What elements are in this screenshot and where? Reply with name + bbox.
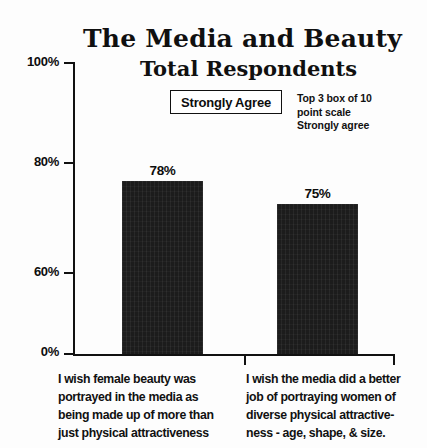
category-0-line-3: just physical attractiveness (58, 424, 243, 442)
y-axis-label-0: 0% (0, 344, 59, 359)
chart-container: The Media and Beauty Total Respondents S… (0, 0, 427, 448)
legend-label: Strongly Agree (181, 95, 271, 110)
bar-value-1: 75% (277, 186, 358, 201)
x-axis-tick (393, 356, 395, 365)
y-axis-label-100: 100% (0, 54, 59, 69)
chart-title: The Media and Beauty (0, 26, 427, 51)
annotation-line-1: Top 3 box of 10 (297, 92, 419, 106)
category-1-line-0: I wish the media did a better (246, 370, 427, 388)
legend-strongly-agree: Strongly Agree (170, 90, 282, 114)
y-axis-tick (64, 62, 74, 64)
bar-1 (277, 204, 358, 354)
y-axis-line (73, 62, 75, 356)
category-label-1: I wish the media did a better job of por… (246, 370, 427, 442)
bar-0 (122, 181, 203, 354)
category-1-line-2: diverse physical attractive- (246, 406, 427, 424)
bar-value-0: 78% (122, 163, 203, 178)
category-0-line-1: portrayed in the media as (58, 388, 243, 406)
y-axis-tick (64, 353, 74, 355)
annotation-line-2: point scale (297, 106, 419, 120)
y-axis-label-80: 80% (0, 154, 59, 169)
category-1-line-1: job of portraying women of (246, 388, 427, 406)
category-0-line-2: being made up of more than (58, 406, 243, 424)
x-axis-line (73, 354, 395, 356)
y-axis-tick (64, 162, 74, 164)
annotation-line-3: Strongly agree (297, 119, 419, 133)
category-1-line-3: ness - age, shape, & size. (246, 424, 427, 442)
chart-annotation: Top 3 box of 10 point scale Strongly agr… (297, 92, 419, 133)
category-label-0: I wish female beauty was portrayed in th… (58, 370, 243, 442)
y-axis-label-60: 60% (0, 264, 59, 279)
x-axis-tick (244, 356, 246, 365)
y-axis-tick (64, 272, 74, 274)
category-0-line-0: I wish female beauty was (58, 370, 243, 388)
